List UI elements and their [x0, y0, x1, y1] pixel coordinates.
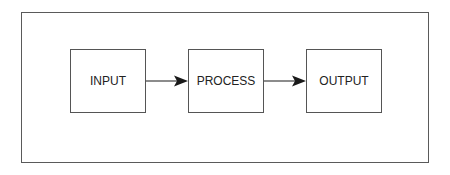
process-node-label: PROCESS — [197, 74, 256, 88]
input-node-label: INPUT — [90, 74, 126, 88]
input-node: INPUT — [70, 49, 146, 113]
output-node: OUTPUT — [306, 49, 382, 113]
process-node: PROCESS — [188, 49, 264, 113]
output-node-label: OUTPUT — [319, 74, 368, 88]
